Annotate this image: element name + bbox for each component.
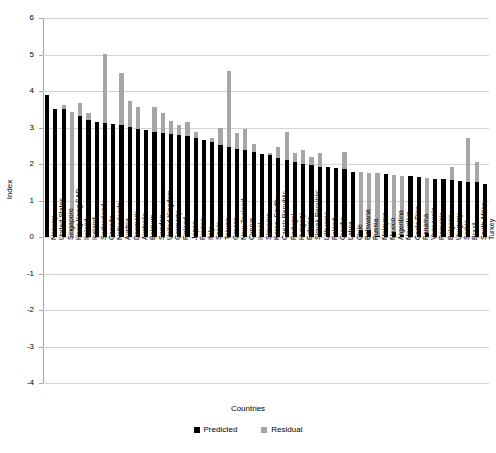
legend-item: Residual bbox=[261, 425, 302, 434]
gridline bbox=[43, 164, 489, 165]
y-axis-tick-label: 2 bbox=[0, 160, 34, 168]
bar-residual bbox=[318, 153, 322, 167]
x-axis-category-label: Russia bbox=[372, 219, 379, 240]
x-axis-category-label: Estonia bbox=[306, 217, 313, 240]
bar-residual bbox=[309, 157, 313, 165]
bar-residual bbox=[152, 107, 156, 132]
gridline bbox=[43, 347, 489, 348]
x-axis-category-label: Argentina bbox=[397, 210, 404, 240]
x-axis-category-label: Sweden bbox=[158, 215, 165, 240]
bar-residual bbox=[475, 162, 479, 182]
x-axis-category-label: Spain bbox=[215, 222, 222, 240]
plot-area bbox=[43, 18, 489, 383]
x-axis-category-label: Mauritius bbox=[405, 212, 412, 240]
bar-residual bbox=[243, 129, 247, 150]
bar-residual bbox=[210, 138, 214, 142]
x-axis-category-label: Germany bbox=[174, 211, 181, 240]
y-axis-tick-label: 1 bbox=[0, 197, 34, 205]
y-axis-title: Index bbox=[5, 165, 14, 215]
x-axis-category-label: Portugal bbox=[290, 214, 297, 240]
x-axis-category-label: Malaysia bbox=[381, 212, 388, 240]
gridline bbox=[43, 128, 489, 129]
bar-residual bbox=[293, 153, 297, 162]
x-axis-category-label: Slovak Republic bbox=[314, 190, 321, 240]
x-axis-category-label: Austria bbox=[124, 218, 131, 240]
bar-residual bbox=[169, 121, 173, 134]
gridline bbox=[43, 310, 489, 311]
y-axis-tick-label: -4 bbox=[0, 379, 34, 387]
y-axis-tick-label: 6 bbox=[0, 14, 34, 22]
x-axis-category-label: United Kingdom bbox=[166, 190, 173, 240]
x-axis-category-label: Australia bbox=[141, 213, 148, 240]
x-axis-category-label: Croatia bbox=[339, 217, 346, 240]
x-axis-category-label: Norway bbox=[50, 216, 57, 240]
x-axis-category-label: Poland bbox=[331, 218, 338, 240]
x-axis-category-label: Panama bbox=[422, 214, 429, 240]
x-axis-category-label: Bulgaria bbox=[447, 214, 454, 240]
bar-residual bbox=[285, 132, 289, 160]
bar-residual bbox=[161, 113, 165, 133]
bar-residual bbox=[268, 153, 272, 155]
x-axis-category-label: Japan bbox=[191, 221, 198, 240]
bar-residual bbox=[301, 150, 305, 164]
bar-residual bbox=[218, 128, 222, 146]
x-axis-category-label: Denmark bbox=[133, 212, 140, 240]
x-axis-category-label: Canada bbox=[108, 215, 115, 240]
y-axis-tick-label: 4 bbox=[0, 87, 34, 95]
gridline bbox=[43, 383, 489, 384]
x-axis-category-label: Singapore bbox=[67, 208, 74, 240]
x-axis-category-label: Turkey bbox=[488, 219, 495, 240]
x-axis-category-label: Chile bbox=[356, 224, 363, 240]
x-axis-category-label: Costa Rica bbox=[414, 206, 421, 240]
bar-residual bbox=[136, 107, 140, 130]
gridline bbox=[43, 201, 489, 202]
bar-residual bbox=[227, 71, 231, 147]
x-axis-category-label: Uruguay bbox=[455, 214, 462, 240]
y-axis-tick-label: -3 bbox=[0, 343, 34, 351]
bar-residual bbox=[450, 167, 454, 180]
bar-residual bbox=[177, 125, 181, 134]
bar-residual bbox=[62, 105, 66, 110]
residual-predicted-bar-chart: Index 6543210-1-2-3-4 NorwayUnited State… bbox=[0, 0, 496, 453]
gridline bbox=[43, 18, 489, 19]
y-axis-tick-label: -2 bbox=[0, 306, 34, 314]
bar-residual bbox=[194, 132, 198, 138]
gridline bbox=[43, 55, 489, 56]
bar-residual bbox=[128, 101, 132, 127]
legend-swatch-icon bbox=[194, 427, 200, 433]
x-axis-category-label: Botswana bbox=[364, 209, 371, 240]
x-axis-category-label: Venezuela bbox=[430, 207, 437, 240]
x-axis-category-label: New Zealand bbox=[240, 199, 247, 240]
x-axis-category-label: Israel bbox=[257, 223, 264, 240]
legend-swatch-icon bbox=[261, 427, 267, 433]
gridline bbox=[43, 274, 489, 275]
x-axis-category-label: Netherlands bbox=[116, 202, 123, 240]
y-axis-tick-label: 5 bbox=[0, 51, 34, 59]
x-axis-category-label: Belgium bbox=[149, 215, 156, 240]
x-axis-category-label: Hungary bbox=[298, 214, 305, 240]
x-axis-category-label: Italy bbox=[207, 227, 214, 240]
x-axis-category-label: Serbia bbox=[463, 220, 470, 240]
x-axis-category-label: Romania bbox=[438, 212, 445, 240]
bar-residual bbox=[119, 73, 123, 125]
bar-residual bbox=[276, 147, 280, 158]
x-axis-category-label: Switzerland bbox=[100, 204, 107, 240]
y-axis-tick-label: 0 bbox=[0, 233, 34, 241]
bar-residual bbox=[103, 54, 107, 124]
bar-residual bbox=[185, 122, 189, 137]
x-axis-category-label: France bbox=[199, 218, 206, 240]
bar-residual bbox=[78, 103, 82, 116]
x-axis-category-label: United States bbox=[58, 198, 65, 240]
x-axis-category-label: Hong Kong SAR bbox=[75, 189, 82, 240]
x-axis-category-label: Lithuania bbox=[323, 212, 330, 240]
x-axis-category-label: Greece bbox=[232, 217, 239, 240]
x-axis-category-label: Ireland bbox=[83, 219, 90, 240]
bar-residual bbox=[359, 172, 363, 230]
x-axis-category-label: South Africa bbox=[480, 202, 487, 240]
bar-residual bbox=[252, 144, 256, 152]
chart-legend: PredictedResidual bbox=[0, 425, 496, 434]
x-axis-category-label: Czech Republic bbox=[281, 191, 288, 240]
y-axis-tick-label: 3 bbox=[0, 124, 34, 132]
x-axis-category-label: Finland bbox=[182, 217, 189, 240]
legend-label: Residual bbox=[271, 425, 302, 434]
